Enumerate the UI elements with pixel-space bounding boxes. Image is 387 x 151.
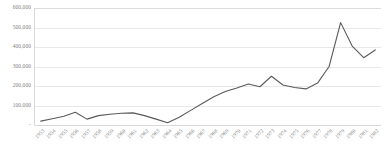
series-polyline <box>41 23 375 123</box>
y-tick-label: 600,000 <box>13 5 31 10</box>
x-tick-label: 1973 <box>265 128 276 139</box>
x-tick-label: 1966 <box>184 128 195 139</box>
x-tick-label: 1959 <box>103 128 114 139</box>
data-series-line <box>35 8 381 125</box>
x-tick-label: 1967 <box>196 128 207 139</box>
x-tick-label: 1960 <box>115 128 126 139</box>
x-tick-label: 1971 <box>242 128 253 139</box>
plot-area <box>34 8 381 126</box>
x-tick-label: 1978 <box>322 128 333 139</box>
x-tick-label: 1956 <box>69 128 80 139</box>
x-tick-label: 1961 <box>126 128 137 139</box>
x-tick-label: 1979 <box>334 128 345 139</box>
x-tick-label: 1965 <box>172 128 183 139</box>
x-tick-label: 1970 <box>230 128 241 139</box>
y-axis: 600,000500,000400,000300,000200,000100,0… <box>0 0 33 151</box>
x-tick-label: 1953 <box>34 128 45 139</box>
x-tick-label: 1974 <box>276 128 287 139</box>
x-tick-label: 1982 <box>369 128 380 139</box>
x-tick-label: 1972 <box>253 128 264 139</box>
x-tick-label: 1981 <box>357 128 368 139</box>
y-tick-label: 500,000 <box>13 25 31 30</box>
x-tick-label: 1977 <box>311 128 322 139</box>
y-tick-label: 200,000 <box>13 83 31 88</box>
x-tick-label: 1969 <box>219 128 230 139</box>
x-tick-label: 1964 <box>161 128 172 139</box>
line-chart: 600,000500,000400,000300,000200,000100,0… <box>0 0 387 151</box>
y-tick-label: 400,000 <box>13 44 31 49</box>
x-tick-label: 1963 <box>149 128 160 139</box>
x-axis: 1953195419551956195719581959196019611962… <box>34 126 380 151</box>
x-tick-label: 1957 <box>80 128 91 139</box>
x-tick-label: 1968 <box>207 128 218 139</box>
x-tick-label: 1980 <box>345 128 356 139</box>
x-tick-label: 1954 <box>46 128 57 139</box>
x-tick-label: 1975 <box>288 128 299 139</box>
x-tick-label: 1976 <box>299 128 310 139</box>
x-tick-label: 1958 <box>92 128 103 139</box>
y-tick-label: - <box>29 122 31 127</box>
x-tick-label: 1955 <box>57 128 68 139</box>
y-tick-label: 100,000 <box>13 103 31 108</box>
y-tick-label: 300,000 <box>13 64 31 69</box>
x-tick-label: 1962 <box>138 128 149 139</box>
